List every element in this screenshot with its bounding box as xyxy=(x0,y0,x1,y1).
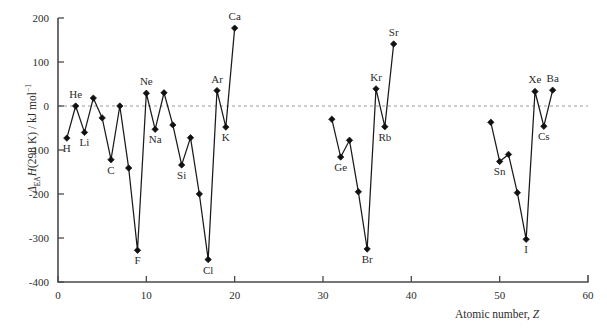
data-point-Be xyxy=(90,95,96,101)
x-axis-title-text: Atomic number, xyxy=(455,308,533,320)
x-tick-label: 10 xyxy=(141,289,153,301)
data-point-K xyxy=(223,124,229,130)
x-tick-label: 30 xyxy=(318,289,330,301)
data-point-Br xyxy=(364,246,370,252)
element-label-Ge: Ge xyxy=(334,161,347,173)
y-tick-label: -400 xyxy=(29,276,50,288)
data-markers-group xyxy=(64,25,556,263)
data-point-Al xyxy=(170,122,176,128)
element-label-Na: Na xyxy=(149,133,162,145)
element-label-F: F xyxy=(134,254,140,266)
data-point-S xyxy=(196,191,202,197)
element-label-Cl: Cl xyxy=(203,264,213,276)
data-point-In xyxy=(488,119,494,125)
data-point-C xyxy=(108,156,114,162)
data-point-Si xyxy=(178,162,184,168)
data-point-Ne xyxy=(143,90,149,96)
data-point-Cl xyxy=(205,256,211,262)
x-tick-label: 60 xyxy=(583,289,595,301)
element-label-Sn: Sn xyxy=(494,165,506,177)
x-axis-ticks xyxy=(58,276,500,282)
element-label-H: H xyxy=(63,142,71,154)
element-label-I: I xyxy=(524,243,528,255)
element-labels-group: HHeLiCFNeNaSiClArKCaGeBrKrRbSrSnIXeCsBa xyxy=(63,10,559,275)
x-tick-label: 50 xyxy=(494,289,506,301)
x-tick-label: 40 xyxy=(406,289,418,301)
data-point-Te xyxy=(514,189,520,195)
x-tick-label: 0 xyxy=(55,289,61,301)
element-label-Si: Si xyxy=(177,169,186,181)
element-label-C: C xyxy=(107,164,114,176)
y-tick-label: 0 xyxy=(44,100,50,112)
data-point-Xe xyxy=(532,88,538,94)
x-axis-title: Atomic number, Z xyxy=(455,308,539,320)
data-point-Kr xyxy=(373,86,379,92)
element-label-Ca: Ca xyxy=(229,10,241,22)
data-point-Se xyxy=(355,189,361,195)
data-point-H xyxy=(64,135,70,141)
element-label-Kr: Kr xyxy=(370,71,382,83)
data-point-Na xyxy=(152,126,158,132)
data-point-Ar xyxy=(214,87,220,93)
element-label-Xe: Xe xyxy=(529,73,542,85)
y-axis-title-exponent: −1 xyxy=(24,84,33,92)
data-point-As xyxy=(346,137,352,143)
element-label-Ar: Ar xyxy=(211,73,223,85)
data-point-Li xyxy=(81,129,87,135)
data-point-Ge xyxy=(337,154,343,160)
element-label-Cs: Cs xyxy=(538,130,550,142)
y-axis-title-paren: (298 K) xyxy=(26,132,38,168)
chart-canvas: HHeLiCFNeNaSiClArKCaGeBrKrRbSrSnIXeCsBa … xyxy=(0,0,607,330)
element-label-Br: Br xyxy=(362,253,373,265)
data-point-I xyxy=(523,236,529,242)
data-point-Rb xyxy=(382,123,388,129)
data-point-He xyxy=(72,103,78,109)
element-label-Sr: Sr xyxy=(389,26,399,38)
data-point-Sr xyxy=(390,41,396,47)
element-label-K: K xyxy=(222,131,230,143)
element-label-He: He xyxy=(69,88,82,100)
element-label-Li: Li xyxy=(80,136,90,148)
data-point-Ca xyxy=(231,25,237,31)
electron-affinity-chart: HHeLiCFNeNaSiClArKCaGeBrKrRbSrSnIXeCsBa … xyxy=(0,0,607,330)
y-axis-title-subscript: EA xyxy=(33,176,42,186)
data-point-Cs xyxy=(541,123,547,129)
data-point-P xyxy=(187,134,193,140)
element-label-Ne: Ne xyxy=(140,75,153,87)
data-point-Mg xyxy=(161,90,167,96)
x-axis-title-symbol: Z xyxy=(533,308,539,320)
y-axis-title-h: H xyxy=(26,168,38,176)
data-point-N xyxy=(117,103,123,109)
data-point-B xyxy=(99,115,105,121)
series-polyline-period-4p-to-5s xyxy=(332,44,394,249)
data-point-F xyxy=(134,247,140,253)
y-axis-title-delta: Δ xyxy=(26,186,38,193)
element-label-Rb: Rb xyxy=(378,131,391,143)
y-axis-title-units: / kJ mol xyxy=(26,92,38,132)
data-point-O xyxy=(125,165,131,171)
y-axis-title: ΔEAH(298 K) / kJ mol−1 xyxy=(24,14,41,264)
data-point-Ba xyxy=(549,87,555,93)
data-series-group xyxy=(67,28,553,259)
data-point-Ga xyxy=(329,116,335,122)
x-tick-label: 20 xyxy=(229,289,241,301)
element-label-Ba: Ba xyxy=(547,72,559,84)
